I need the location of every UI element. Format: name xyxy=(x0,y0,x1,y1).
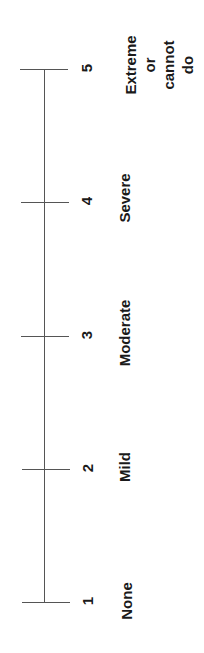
tick-label-2: Mild xyxy=(115,452,134,482)
label-line: or xyxy=(140,35,159,94)
tick-1 xyxy=(22,602,70,603)
tick-number-3: 3 xyxy=(78,331,95,339)
tick-number-5: 5 xyxy=(78,64,95,72)
tick-label-1: None xyxy=(117,582,136,620)
tick-number-2: 2 xyxy=(79,464,96,472)
tick-number-4: 4 xyxy=(78,197,95,205)
tick-4 xyxy=(21,202,69,203)
tick-3 xyxy=(21,336,69,337)
tick-label-3: Moderate xyxy=(115,300,134,367)
tick-5 xyxy=(20,69,68,70)
label-line: cannot xyxy=(159,35,178,94)
tick-label-4: Severe xyxy=(115,173,134,222)
tick-2 xyxy=(22,469,70,470)
tick-number-1: 1 xyxy=(79,597,96,605)
label-line: Extreme xyxy=(121,35,140,94)
label-line: do xyxy=(178,35,197,94)
tick-label-5: Extreme or cannot do xyxy=(121,35,197,94)
